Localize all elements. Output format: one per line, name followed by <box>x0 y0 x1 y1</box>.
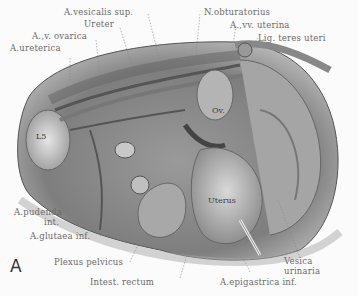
label-a-vesicalis-sup: A.vesicalis sup. <box>64 8 133 17</box>
label-lig-teres-uteri: Lig. teres uteri <box>258 34 326 43</box>
label-vesica-urinaria: Vesica <box>284 257 313 266</box>
panel-letter: A <box>10 256 22 276</box>
label-n-obturatorius: N.obturatorius <box>204 8 270 17</box>
label-l5: L5 <box>36 132 46 141</box>
label-a-pudenda-int: A.pudenda <box>14 208 62 217</box>
label-vesica-urinaria-line2: urinaria <box>284 267 320 276</box>
label-a-glutaea-inf: A.glutaea inf. <box>30 232 90 241</box>
label-a-vv-uterina: A.,vv. uterina <box>230 21 290 30</box>
anatomical-figure: A.vesicalis sup. Ureter A.,v. ovarica A.… <box>0 0 358 296</box>
label-intest-rectum: Intest. rectum <box>90 278 154 287</box>
label-uterus: Uterus <box>208 196 236 205</box>
label-a-v-ovarica: A.,v. ovarica <box>32 32 87 41</box>
label-ovary: Ov. <box>212 106 225 115</box>
label-a-epigastrica-inf: A.epigastrica inf. <box>220 278 297 287</box>
label-a-pudenda-int-line2: int. <box>44 218 59 227</box>
label-plexus-pelvicus: Plexus pelvicus <box>54 258 123 267</box>
label-ureter: Ureter <box>84 20 114 29</box>
label-a-ureterica: A.ureterica <box>10 44 61 53</box>
